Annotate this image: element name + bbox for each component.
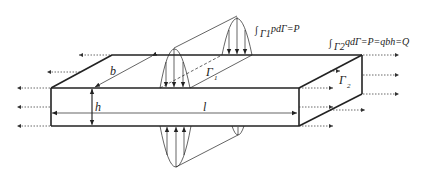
svg-text:2: 2 xyxy=(347,82,351,90)
svg-text:Γ: Γ xyxy=(205,65,214,79)
svg-text:Γ2: Γ2 xyxy=(333,41,345,52)
svg-text:∫: ∫ xyxy=(254,24,259,36)
svg-text:pdΓ=P: pdΓ=P xyxy=(270,23,300,34)
label-gamma1: Γ 1 xyxy=(205,65,218,82)
left-traction-arrows xyxy=(17,55,110,126)
label-b: b xyxy=(110,64,116,78)
label-l: l xyxy=(203,100,207,114)
plate-diagram: b h l Γ 1 Γ 2 ∫ Γ1 pdΓ=P ∫ Γ2 qdΓ=P=qbh=… xyxy=(0,0,421,182)
svg-text:1: 1 xyxy=(214,74,218,82)
right-traction-arrows xyxy=(299,55,399,126)
svg-text:∫: ∫ xyxy=(328,37,333,49)
svg-text:qdΓ=P=qbh=Q: qdΓ=P=qbh=Q xyxy=(345,36,410,47)
equation-right: ∫ Γ2 qdΓ=P=qbh=Q xyxy=(328,36,410,52)
label-gamma2: Γ 2 xyxy=(338,73,351,90)
equation-top: ∫ Γ1 pdΓ=P xyxy=(254,23,300,39)
svg-text:Γ: Γ xyxy=(338,73,347,87)
label-h: h xyxy=(95,100,101,114)
dimension-b xyxy=(95,56,152,87)
svg-text:Γ1: Γ1 xyxy=(259,28,271,39)
bottom-parabolic-load xyxy=(160,126,244,167)
